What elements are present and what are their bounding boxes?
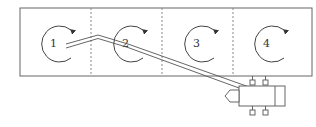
chamber-label: 1: [50, 37, 57, 50]
chamber-3: 3: [185, 26, 214, 62]
pipe: [66, 35, 252, 92]
chamber-4: 4: [255, 26, 284, 62]
chamber-label: 4: [263, 37, 270, 50]
diagram: 1 2 3 4: [0, 0, 316, 127]
pump-nozzle: [225, 90, 239, 102]
pump-body: [239, 86, 285, 106]
chamber-label: 3: [193, 37, 200, 50]
